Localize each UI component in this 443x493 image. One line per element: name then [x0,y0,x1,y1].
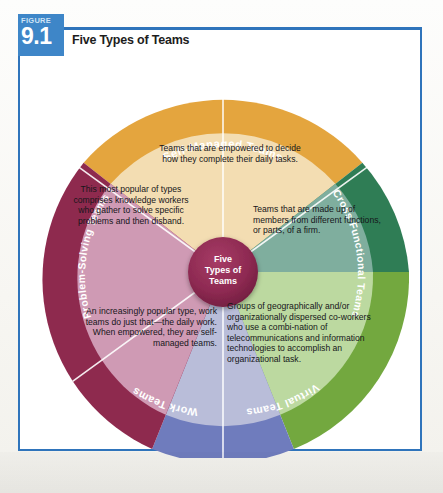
segment-text-virtual: Groups of geographically and/or organiza… [227,301,371,365]
page-title: Five Types of Teams [72,33,189,47]
figure-number: 9.1 [21,24,51,49]
hub-line-2: Types of [185,265,261,276]
hub-line-3: Teams [185,276,261,287]
segment-text-self-managed: Teams that are empowered to decide how t… [155,143,305,164]
scan-artifact [0,452,443,493]
segment-text-work: An increasingly popular type, work teams… [77,306,217,348]
hub-line-1: Five [185,254,261,265]
figure-number-badge: FIGURE 9.1 [18,14,64,56]
title-rule [64,28,422,30]
figure-page: FIGURE 9.1 Five Types of Teams [0,0,443,493]
hub-label: Five Types of Teams [185,254,261,287]
five-types-of-teams-wheel: Self-Managed Teams Cross-Functional Team… [37,86,409,458]
segment-text-problem-solving: This most popular of types comprises kno… [73,184,189,226]
segment-text-cross-functional: Teams that are made up of members from d… [253,204,383,236]
